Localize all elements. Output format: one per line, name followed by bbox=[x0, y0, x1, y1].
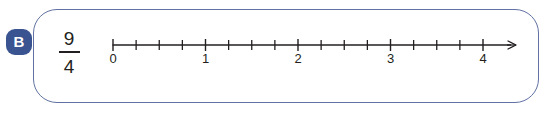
exercise-screenshot: B 9 4 01234 Ilustrações: Sérgio L. Filho… bbox=[0, 0, 559, 113]
exercise-frame bbox=[33, 9, 539, 103]
fraction-nine-fourths: 9 4 bbox=[52, 28, 86, 77]
fraction-bar bbox=[59, 51, 80, 53]
fraction-denominator: 4 bbox=[52, 55, 86, 77]
item-badge-b: B bbox=[6, 29, 32, 55]
fraction-numerator: 9 bbox=[52, 28, 86, 50]
